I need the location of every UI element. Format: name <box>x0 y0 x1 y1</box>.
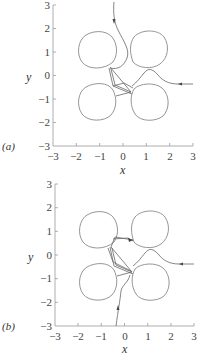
x-axis-label: x <box>120 163 125 178</box>
plot-b-svg <box>0 177 201 354</box>
y-tick: −2 <box>38 297 52 308</box>
panel-label: (a) <box>2 140 15 152</box>
x-tick: 0 <box>117 331 133 342</box>
x-tick: −2 <box>68 151 84 162</box>
trajectories-b <box>108 237 194 326</box>
arrow-icon <box>178 83 182 86</box>
arrow-icon <box>128 238 133 242</box>
y-tick: 3 <box>38 179 52 190</box>
x-axis-label: x <box>122 342 127 354</box>
y-tick: −2 <box>36 117 50 128</box>
x-tick: −1 <box>92 151 108 162</box>
x-tick: −3 <box>47 331 63 342</box>
loops-a <box>79 31 169 120</box>
y-tick: 0 <box>38 250 52 261</box>
y-axis-label: y <box>28 250 33 265</box>
loops-b <box>80 211 170 300</box>
panel-label: (b) <box>2 320 15 332</box>
x-tick: 0 <box>115 151 131 162</box>
y-tick: 1 <box>38 226 52 237</box>
panel-a: 3 2 1 0 −1 −2 −3 y −3 −2 −1 0 1 2 3 x (a… <box>0 0 201 177</box>
arrow-icon <box>179 263 183 266</box>
x-tick: 1 <box>140 331 156 342</box>
y-tick: −1 <box>38 273 52 284</box>
trajectories-a <box>109 2 193 96</box>
y-tick: 2 <box>38 202 52 213</box>
y-tick: 3 <box>36 0 50 11</box>
x-tick: 2 <box>162 151 178 162</box>
y-tick: 0 <box>36 70 50 81</box>
x-tick: −3 <box>45 151 61 162</box>
x-tick: 1 <box>138 151 154 162</box>
y-axis-label: y <box>26 70 31 85</box>
y-tick: −1 <box>36 94 50 105</box>
y-tick: 2 <box>36 23 50 34</box>
x-tick: 3 <box>185 151 201 162</box>
y-tick: 1 <box>36 47 50 58</box>
panel-b: 3 2 1 0 −1 −2 −3 y −3 −2 −1 0 1 2 3 x (b… <box>0 177 201 354</box>
x-tick: −2 <box>70 331 86 342</box>
x-tick: 3 <box>186 331 201 342</box>
x-tick: −1 <box>93 331 109 342</box>
x-tick: 2 <box>163 331 179 342</box>
